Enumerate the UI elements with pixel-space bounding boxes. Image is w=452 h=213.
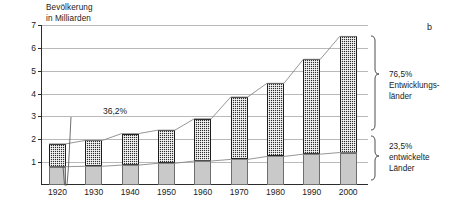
legend-developing-pct: 76,5%: [389, 70, 412, 81]
x-tick-label-1930: 1930: [77, 188, 111, 197]
x-tick-label-2000: 2000: [331, 188, 365, 197]
x-tick-label-1960: 1960: [186, 188, 220, 197]
legend-developing-label: Entwicklungs- länder: [389, 81, 440, 102]
x-tick-label-1980: 1980: [258, 188, 292, 197]
x-tick-label-1990: 1990: [295, 188, 329, 197]
x-tick-label-1970: 1970: [222, 188, 256, 197]
callout-leader-line: [41, 25, 368, 185]
x-tick-label-1950: 1950: [149, 188, 183, 197]
x-tick-label-1920: 1920: [41, 188, 75, 197]
legend-developed-pct: 23,5%: [389, 142, 412, 153]
y-tick-label-4: 4: [31, 90, 36, 99]
legend-developed-label: entwickelte Länder: [389, 153, 430, 174]
plot-area: 7 6 5 4 3 2 1 36,2% 19201930194019501960…: [41, 25, 368, 185]
y-axis-title: Bevölkerung in Milliarden: [46, 3, 93, 24]
y-tick-label-7: 7: [31, 21, 36, 30]
figure-letter: b: [427, 22, 432, 32]
y-tick-label-5: 5: [31, 67, 36, 76]
x-tick-label-1940: 1940: [113, 188, 147, 197]
y-tick-label-2: 2: [31, 135, 36, 144]
side-braces: [368, 25, 388, 185]
y-tick-label-1: 1: [31, 158, 36, 167]
y-tick-label-6: 6: [31, 44, 36, 53]
chart-figure: Bevölkerung in Milliarden b 7 6 5 4 3: [0, 0, 452, 213]
y-tick-label-3: 3: [31, 112, 36, 121]
